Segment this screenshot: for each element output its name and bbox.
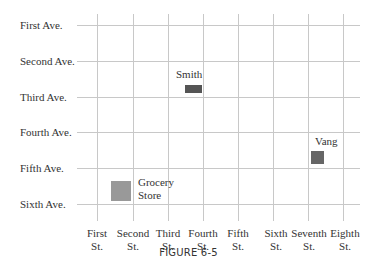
street-line-first <box>97 14 98 221</box>
street-line-seventh <box>308 14 309 221</box>
avenue-label-first: First Ave. <box>20 19 63 31</box>
smith-label: Smith <box>176 68 202 81</box>
grocery-store-label: Grocery Store <box>138 176 174 202</box>
avenue-line-fourth <box>77 132 360 133</box>
vang-marker <box>311 151 324 164</box>
grocery-store-label-line2: Store <box>138 189 174 202</box>
street-line-second <box>133 14 134 221</box>
avenue-label-third: Third Ave. <box>20 91 67 103</box>
avenue-label-fifth: Fifth Ave. <box>20 162 64 174</box>
vang-label: Vang <box>315 135 338 148</box>
street-line-eighth <box>343 14 344 221</box>
avenue-label-sixth: Sixth Ave. <box>20 198 66 210</box>
smith-marker <box>185 85 202 93</box>
figure-caption: FIGURE 6-5 <box>0 247 377 258</box>
grocery-store-label-line1: Grocery <box>138 176 174 189</box>
avenue-label-fourth: Fourth Ave. <box>20 126 72 138</box>
avenue-label-second: Second Ave. <box>20 55 75 67</box>
street-line-fifth <box>238 14 239 221</box>
avenue-line-second <box>77 61 360 62</box>
avenue-line-third <box>77 97 360 98</box>
street-line-sixth <box>273 14 274 221</box>
street-line-fourth <box>203 14 204 221</box>
avenue-line-first <box>77 25 360 26</box>
grocery-store-marker <box>111 181 131 201</box>
avenue-line-sixth <box>77 204 360 205</box>
avenue-line-fifth <box>77 168 360 169</box>
street-label-line1: Eighth <box>320 227 370 240</box>
